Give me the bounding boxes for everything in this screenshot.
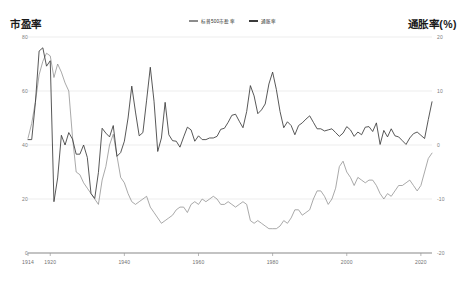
y2-axis-tick-label: -20 <box>437 250 461 256</box>
legend-item-pe: 标普500市盈率 <box>189 18 235 24</box>
data-series <box>28 48 432 229</box>
legend-swatch-pe <box>189 20 198 22</box>
left-axis-title: 市盈率 <box>10 16 42 31</box>
y-axis-tick-label: 0 <box>6 250 28 256</box>
y-axis-tick-label: 60 <box>6 88 28 94</box>
axes <box>28 253 432 256</box>
x-axis-tick-label: 1940 <box>118 259 130 265</box>
gridlines <box>28 37 432 253</box>
chart-root: 市盈率 通胀率(%) 标普500市盈率 通胀率 020406080-20-100… <box>0 0 465 290</box>
x-axis-tick-label: 2000 <box>341 259 353 265</box>
chart-legend: 标普500市盈率 通胀率 <box>0 18 465 24</box>
plot-area <box>28 37 432 253</box>
chart-canvas <box>28 37 432 253</box>
x-axis-tick-label: 2020 <box>415 259 427 265</box>
x-axis-tick-label: 1960 <box>193 259 205 265</box>
y-axis-tick-label: 20 <box>6 196 28 202</box>
series-line-pe <box>28 53 432 229</box>
right-axis-title: 通胀率(%) <box>408 16 457 31</box>
x-axis-tick-label: 1914 <box>22 259 34 265</box>
legend-swatch-inflation <box>249 20 258 22</box>
y-axis-tick-label: 80 <box>6 34 28 40</box>
y2-axis-tick-label: 0 <box>437 142 461 148</box>
legend-item-inflation: 通胀率 <box>249 18 277 24</box>
y-axis-tick-label: 40 <box>6 142 28 148</box>
legend-label-pe: 标普500市盈率 <box>201 18 235 24</box>
y2-axis-tick-label: 20 <box>437 34 461 40</box>
y2-axis-tick-label: 10 <box>437 88 461 94</box>
series-line-inflation <box>28 48 432 202</box>
x-axis-tick-label: 1920 <box>44 259 56 265</box>
x-axis-tick-label: 1980 <box>267 259 279 265</box>
legend-label-inflation: 通胀率 <box>261 18 277 24</box>
y2-axis-tick-label: -10 <box>437 196 461 202</box>
